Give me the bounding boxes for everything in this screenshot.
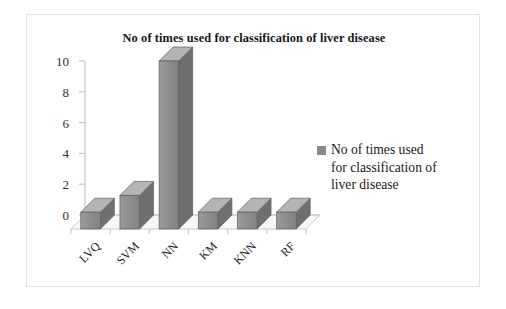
chart-frame: No of times used for classification of l… bbox=[26, 14, 480, 287]
legend-label: No of times used for classification of l… bbox=[331, 141, 437, 194]
legend-swatch-icon bbox=[317, 146, 326, 155]
plot-area: 10 8 6 4 2 0 LVQ SVM NN KM KNN RF bbox=[27, 15, 481, 288]
legend-label-line3: liver disease bbox=[331, 176, 437, 194]
legend-label-line1: No of times used bbox=[331, 141, 437, 159]
legend-label-line2: for classification of bbox=[331, 159, 437, 177]
chart-screenshot: No of times used for classification of l… bbox=[0, 0, 506, 309]
chart-legend: No of times used for classification of l… bbox=[317, 141, 477, 194]
